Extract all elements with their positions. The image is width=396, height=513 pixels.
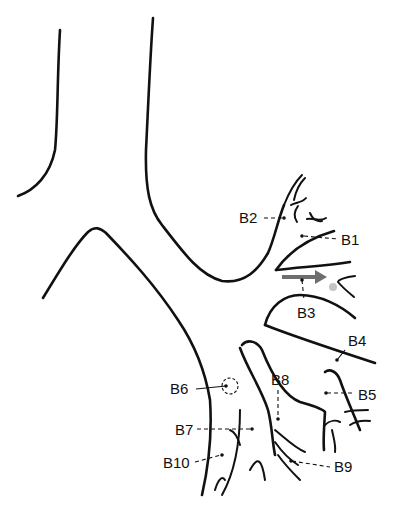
b5-sub1 (345, 410, 368, 412)
b6-leader (196, 386, 226, 389)
b3-target-dot (329, 283, 337, 291)
b3-arrow-icon (282, 270, 327, 284)
b8-loop (242, 341, 325, 450)
label-b4: B4 (348, 333, 366, 348)
label-b2: B2 (239, 210, 257, 225)
label-b5: B5 (358, 387, 376, 402)
label-b6: B6 (170, 381, 188, 396)
b10-sub3 (215, 478, 225, 490)
bronchial-tree-drawing (0, 0, 396, 513)
b1-sub3 (307, 218, 326, 220)
label-b3: B3 (297, 305, 315, 320)
b3-upper-wall (276, 262, 350, 270)
b10-sub2 (250, 461, 265, 480)
b3-leader (302, 280, 304, 300)
label-b9: B9 (334, 459, 352, 474)
b10-trunk (222, 410, 240, 495)
b3-fork (338, 276, 355, 297)
label-b7: B7 (175, 422, 193, 437)
basal-trunk-left (240, 348, 275, 455)
b8-sub2 (332, 430, 335, 452)
label-b8: B8 (271, 372, 289, 387)
trachea-right-wall (146, 18, 284, 281)
b5-sub2 (350, 421, 370, 425)
trachea-left-wall (18, 30, 60, 196)
b2-branch (284, 175, 302, 205)
label-b10: B10 (163, 455, 190, 470)
b8-sub1 (325, 421, 340, 425)
label-b1: B1 (341, 232, 359, 247)
b1-sub1 (295, 206, 298, 222)
